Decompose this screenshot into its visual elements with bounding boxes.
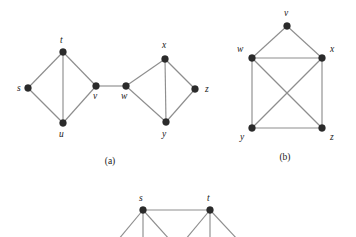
graph-vertex-t — [207, 207, 214, 214]
vertex-label-z: z — [329, 132, 334, 142]
vertices-layer — [25, 23, 326, 214]
graph-vertex-z — [319, 125, 326, 132]
graph-edge-w-x — [126, 59, 165, 86]
graph-pendant-edge-t-3 — [185, 210, 210, 237]
figure-root: stuvwxyzvwxyzst (a)(b) — [0, 0, 356, 237]
graph-vertex-v — [93, 83, 100, 90]
vertex-label-v: v — [93, 91, 98, 101]
vertex-label-y: y — [161, 129, 167, 139]
graph-pendant-edge-t-5 — [210, 210, 238, 237]
vertex-label-t: t — [207, 193, 210, 203]
graph-vertex-s — [140, 207, 147, 214]
graph-vertex-s — [25, 85, 32, 92]
caption-a: (a) — [105, 156, 116, 167]
graph-vertex-t — [60, 49, 67, 56]
vertex-label-w: w — [237, 44, 244, 54]
graph-pendant-edge-s-2 — [143, 210, 170, 237]
graph-vertex-x — [319, 55, 326, 62]
vertex-label-t: t — [60, 35, 63, 45]
vertex-label-w: w — [121, 91, 128, 101]
graph-vertex-y — [163, 119, 170, 126]
graph-vertex-u — [60, 120, 67, 127]
graph-edge-s-t — [28, 52, 63, 88]
vertex-label-s: s — [17, 83, 21, 93]
graph-vertex-w — [123, 83, 130, 90]
graph-edge-u-v — [63, 86, 96, 123]
vertex-label-z: z — [204, 84, 209, 94]
graph-figure-canvas: stuvwxyzvwxyzst (a)(b) — [0, 0, 356, 237]
caption-b: (b) — [279, 152, 290, 163]
graph-vertex-z — [192, 86, 199, 93]
vertex-label-s: s — [139, 193, 143, 203]
vertex-label-x: x — [161, 40, 167, 50]
vertex-label-y: y — [239, 132, 245, 142]
vertex-label-u: u — [59, 129, 64, 139]
captions-layer: (a)(b) — [105, 152, 291, 167]
graph-edge-v-x — [287, 26, 322, 58]
graph-edge-t-v — [63, 52, 96, 86]
edges-layer — [28, 26, 322, 237]
graph-edge-x-y — [165, 59, 166, 122]
vertex-label-v: v — [284, 8, 289, 18]
graph-vertex-x — [162, 56, 169, 63]
graph-edge-s-u — [28, 88, 63, 123]
graph-vertex-y — [249, 125, 256, 132]
graph-edge-v-w — [252, 26, 287, 58]
vertex-label-x: x — [329, 44, 335, 54]
graph-edge-x-z — [165, 59, 195, 89]
graph-edge-y-z — [166, 89, 195, 122]
vertex-labels-layer: stuvwxyzvwxyzst — [17, 8, 335, 203]
graph-vertex-w — [249, 55, 256, 62]
graph-vertex-v — [284, 23, 291, 30]
graph-pendant-edge-s-0 — [118, 210, 143, 237]
graph-edge-w-y — [126, 86, 166, 122]
